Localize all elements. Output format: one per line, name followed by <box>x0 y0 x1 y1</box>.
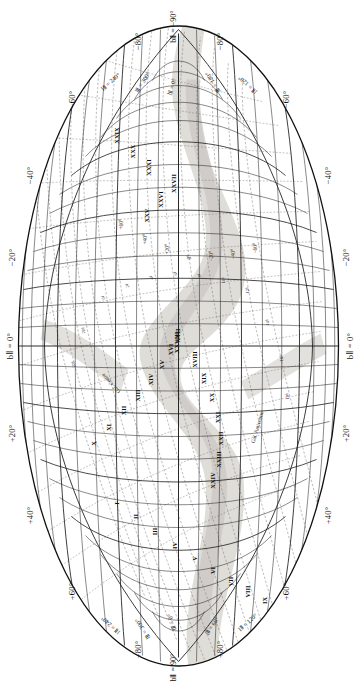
lat-tick-plus60-top: +60° <box>66 582 76 600</box>
lat-tick-minus80-bottom: −80° <box>214 32 224 50</box>
rotated-map-container: bⅡ = 90° bⅡ = −90° bⅡ = 0° bⅡ = 0° +20° … <box>0 0 356 691</box>
dec-label-0: 0° <box>185 254 191 259</box>
dec-label-plus60: +60° <box>117 218 123 229</box>
zone-label: XXX <box>128 144 135 158</box>
zone-label: II <box>131 513 138 518</box>
lat-tick-plus60-bottom: +60° <box>280 582 290 600</box>
ra-label-10h: 10ʰ <box>220 276 225 283</box>
zone-label: V <box>190 555 197 560</box>
lat-tick-minus60-top: −60° <box>66 90 76 108</box>
pole-label-north: bⅡ = 90° <box>168 653 177 681</box>
zone-label: XXIX <box>112 126 119 143</box>
zone-label: XXVIII <box>172 331 179 353</box>
sky-map-svg: bⅡ = 90° bⅡ = −90° bⅡ = 0° bⅡ = 0° +20° … <box>0 0 356 691</box>
zone-label: XXII <box>216 430 223 445</box>
lat-tick-plus40-bottom: +40° <box>322 506 332 524</box>
lat-tick-minus60-bottom: −60° <box>280 90 290 108</box>
ra-label-0h: 0ʰ <box>100 295 105 299</box>
north-pole-text: bⅡ = 90° <box>168 653 177 681</box>
lat-tick-plus80-bottom: +80° <box>214 640 224 658</box>
zone-label: I <box>112 501 119 504</box>
zone-label: XXIII <box>214 450 221 467</box>
zone-label: XXVI <box>156 190 163 207</box>
zone-label: VI <box>208 566 215 574</box>
zone-label: XI <box>104 423 111 431</box>
ra-label-8h: 8ʰ <box>196 273 201 277</box>
zone-label: XV <box>157 359 164 369</box>
zone-label: XXI <box>213 411 220 423</box>
top-axis-label: bⅡ = 0° <box>4 332 14 358</box>
south-pole-text: bⅡ = −90° <box>168 10 177 42</box>
zone-label: VII <box>226 576 233 586</box>
zone-label: XIII <box>133 388 140 401</box>
zone-label: XXV <box>142 208 149 222</box>
lat-tick-minus20-top: −20° <box>6 248 16 266</box>
bottom-axis-label: bⅡ = 0° <box>344 332 354 358</box>
lat-tick-plus20-top: +20° <box>6 424 16 442</box>
ra-label-22h: 22ʰ <box>70 360 75 367</box>
pole-label-south: bⅡ = −90° <box>168 10 177 42</box>
ra-label-14h: 14ʰ <box>264 318 269 325</box>
ra-label-12h: 12ʰ <box>244 286 249 293</box>
zone-label: XXIV <box>208 471 215 488</box>
zone-label: XXVII <box>169 173 176 192</box>
zone-label: VIII <box>243 584 250 597</box>
zone-label: IX <box>260 596 267 603</box>
lat-tick-minus40-bottom: −40° <box>322 166 332 184</box>
zone-label: X <box>89 440 96 445</box>
lat-tick-plus40-top: +40° <box>24 506 34 524</box>
zone-label: XXXI <box>144 158 151 175</box>
zone-label: III <box>150 527 157 535</box>
ra-label-18h: 18ʰ <box>284 392 289 399</box>
ra-label-2h: 2ʰ <box>124 283 129 287</box>
ra-label-4h: 4ʰ <box>148 275 153 279</box>
zone-label: XII <box>119 405 126 415</box>
lat-tick-minus40-top: −40° <box>24 166 34 184</box>
galactic-map-figure: bⅡ = 90° bⅡ = −90° bⅡ = 0° bⅡ = 0° +20° … <box>0 0 356 691</box>
zone-label: XX <box>207 392 214 402</box>
ra-label-6h: 6ʰ <box>172 271 177 275</box>
zone-label: XIX <box>199 372 206 384</box>
lat-tick-minus20-bottom: −20° <box>340 248 350 266</box>
zone-label: XIV <box>146 373 153 385</box>
ra-label-16h: 16ʰ <box>278 354 283 361</box>
dec-label-minus40: −40° <box>229 248 235 259</box>
lat-tick-plus20-bottom: +20° <box>340 424 350 442</box>
dec-label-minus60: −60° <box>251 242 257 253</box>
dec-label-plus20: +20° <box>163 243 169 254</box>
dec-label-minus20: −20° <box>207 250 213 261</box>
lat-tick-plus80-top: +80° <box>132 640 142 658</box>
ra-label-20h: 20ʰ <box>80 326 85 333</box>
zone-label: XVIII <box>190 350 197 367</box>
lat-tick-minus80-top: −80° <box>132 32 142 50</box>
zone-label: IV <box>170 541 177 548</box>
dec-label-plus40: +40° <box>141 233 147 244</box>
